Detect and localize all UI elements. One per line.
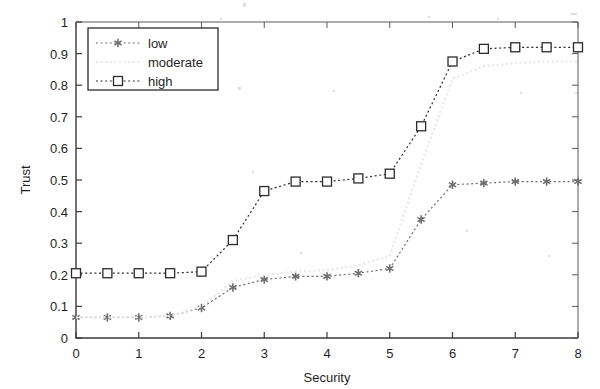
- marker-asterisk: [229, 283, 236, 291]
- series-low: [72, 177, 581, 321]
- x-tick-label: 2: [198, 346, 205, 361]
- scan-speck: [548, 255, 550, 257]
- marker-asterisk: [323, 272, 330, 280]
- marker-square: [260, 187, 269, 196]
- marker-asterisk: [355, 269, 362, 277]
- marker-square: [448, 57, 457, 66]
- marker-square: [291, 177, 300, 186]
- y-tick-label: 1: [61, 15, 68, 30]
- scan-speck: [220, 18, 222, 20]
- marker-asterisk: [417, 215, 424, 223]
- y-tick-label: 0.1: [50, 299, 68, 314]
- legend-label-low: low: [148, 36, 168, 51]
- marker-square: [542, 43, 551, 52]
- marker-square: [354, 174, 363, 183]
- y-tick-label: 0.7: [50, 110, 68, 125]
- chart-figure: 00.10.20.30.40.50.60.70.80.91012345678Se…: [0, 0, 600, 389]
- y-tick-label: 0.8: [50, 78, 68, 93]
- marker-asterisk: [386, 264, 393, 272]
- legend-label-moderate: moderate: [148, 55, 203, 70]
- y-tick-label: 0: [61, 331, 68, 346]
- marker-square: [197, 267, 206, 276]
- marker-square: [574, 43, 583, 52]
- y-tick-label: 0.4: [50, 205, 68, 220]
- marker-square: [323, 177, 332, 186]
- marker-square: [417, 122, 426, 131]
- marker-asterisk: [543, 177, 550, 185]
- marker-square: [166, 269, 175, 278]
- x-tick-label: 3: [261, 346, 268, 361]
- trust-vs-security-line-chart: 00.10.20.30.40.50.60.70.80.91012345678Se…: [0, 0, 600, 389]
- x-tick-label: 5: [386, 346, 393, 361]
- marker-square: [385, 169, 394, 178]
- x-tick-label: 8: [574, 346, 581, 361]
- marker-square: [479, 44, 488, 53]
- marker-square: [114, 77, 123, 86]
- scan-speck: [243, 3, 246, 7]
- marker-square: [134, 269, 143, 278]
- y-tick-label: 0.6: [50, 141, 68, 156]
- y-tick-label: 0.2: [50, 268, 68, 283]
- x-tick-label: 1: [135, 346, 142, 361]
- scan-speck: [252, 171, 254, 173]
- marker-square: [228, 236, 237, 245]
- y-axis-title: Trust: [18, 165, 33, 195]
- scan-speck: [466, 230, 468, 232]
- scan-speck: [575, 92, 577, 94]
- y-tick-label: 0.3: [50, 236, 68, 251]
- scan-speck: [571, 13, 577, 15]
- y-tick-label: 0.9: [50, 47, 68, 62]
- scan-speck: [238, 87, 241, 90]
- legend-label-high: high: [148, 74, 173, 89]
- scan-speck: [333, 90, 335, 92]
- x-tick-label: 7: [512, 346, 519, 361]
- x-tick-label: 4: [323, 346, 330, 361]
- series-line-low: [76, 182, 578, 318]
- y-tick-label: 0.5: [50, 173, 68, 188]
- marker-asterisk: [574, 177, 581, 185]
- marker-square: [103, 269, 112, 278]
- x-tick-label: 0: [72, 346, 79, 361]
- x-tick-label: 6: [449, 346, 456, 361]
- marker-square: [511, 43, 520, 52]
- scan-speck: [300, 252, 302, 254]
- scan-artifacts: [220, 3, 577, 257]
- scan-speck: [520, 92, 522, 94]
- chart-legend: lowmoderatehigh: [88, 28, 218, 90]
- marker-square: [72, 269, 81, 278]
- scan-speck: [497, 18, 499, 20]
- x-axis-title: Security: [304, 370, 351, 385]
- scan-speck: [428, 16, 430, 18]
